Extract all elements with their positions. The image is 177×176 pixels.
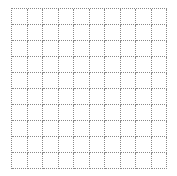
grid-cell[interactable]: [74, 57, 90, 73]
grid-cell[interactable]: [74, 25, 90, 41]
grid-cell[interactable]: [12, 105, 28, 121]
grid-cell[interactable]: [105, 137, 121, 153]
grid-cell[interactable]: [43, 9, 59, 25]
grid-cell[interactable]: [90, 9, 106, 25]
grid-cell[interactable]: [28, 57, 44, 73]
grid-cell[interactable]: [105, 105, 121, 121]
grid-cell[interactable]: [90, 153, 106, 169]
grid-cell[interactable]: [59, 73, 75, 89]
grid-cell[interactable]: [12, 73, 28, 89]
grid-cell[interactable]: [43, 137, 59, 153]
grid-cell[interactable]: [121, 153, 137, 169]
grid-cell[interactable]: [136, 105, 152, 121]
grid-cell[interactable]: [105, 73, 121, 89]
grid-cell[interactable]: [28, 137, 44, 153]
grid-cell[interactable]: [136, 73, 152, 89]
grid-cell[interactable]: [152, 153, 168, 169]
grid-cell[interactable]: [28, 73, 44, 89]
grid-cell[interactable]: [28, 89, 44, 105]
grid-cell[interactable]: [90, 57, 106, 73]
grid-cell[interactable]: [59, 105, 75, 121]
grid-cell[interactable]: [121, 121, 137, 137]
grid-cell[interactable]: [59, 121, 75, 137]
grid-cell[interactable]: [43, 153, 59, 169]
grid-cell[interactable]: [136, 41, 152, 57]
grid-cell[interactable]: [152, 9, 168, 25]
grid-cell[interactable]: [59, 153, 75, 169]
grid-cell[interactable]: [121, 41, 137, 57]
grid-cell[interactable]: [90, 25, 106, 41]
grid-cell[interactable]: [152, 73, 168, 89]
grid-cell[interactable]: [12, 153, 28, 169]
grid-cell[interactable]: [121, 57, 137, 73]
grid-cell[interactable]: [74, 137, 90, 153]
grid-cell[interactable]: [90, 105, 106, 121]
grid-cell[interactable]: [105, 41, 121, 57]
grid-cell[interactable]: [121, 9, 137, 25]
grid-cell[interactable]: [28, 153, 44, 169]
grid-cell[interactable]: [136, 57, 152, 73]
grid-cell[interactable]: [152, 105, 168, 121]
grid-cell[interactable]: [74, 89, 90, 105]
grid-cell[interactable]: [43, 121, 59, 137]
grid-cell[interactable]: [74, 9, 90, 25]
grid-cell[interactable]: [136, 137, 152, 153]
grid-cell[interactable]: [90, 73, 106, 89]
grid-cell[interactable]: [74, 73, 90, 89]
grid-cell[interactable]: [152, 57, 168, 73]
grid-cell[interactable]: [43, 41, 59, 57]
grid-cell[interactable]: [12, 25, 28, 41]
grid-cell[interactable]: [43, 57, 59, 73]
grid-cell[interactable]: [28, 41, 44, 57]
grid-cell[interactable]: [43, 25, 59, 41]
grid-cell[interactable]: [74, 105, 90, 121]
grid-cell[interactable]: [136, 89, 152, 105]
grid-cell[interactable]: [136, 9, 152, 25]
grid-cell[interactable]: [105, 9, 121, 25]
grid-cell[interactable]: [28, 25, 44, 41]
grid-cell[interactable]: [12, 41, 28, 57]
grid-cell[interactable]: [43, 105, 59, 121]
grid-cell[interactable]: [121, 89, 137, 105]
grid-cell[interactable]: [90, 89, 106, 105]
grid-cell[interactable]: [105, 57, 121, 73]
grid-cell[interactable]: [59, 57, 75, 73]
grid-cell[interactable]: [74, 121, 90, 137]
grid-cell[interactable]: [74, 153, 90, 169]
grid-cell[interactable]: [12, 9, 28, 25]
grid-cell[interactable]: [59, 25, 75, 41]
grid-cell[interactable]: [152, 89, 168, 105]
grid-cell[interactable]: [121, 25, 137, 41]
grid-cell[interactable]: [12, 57, 28, 73]
grid-cell[interactable]: [74, 41, 90, 57]
grid-cell[interactable]: [152, 137, 168, 153]
grid-cell[interactable]: [105, 89, 121, 105]
grid-cell[interactable]: [90, 137, 106, 153]
grid-cell[interactable]: [12, 121, 28, 137]
grid-cell[interactable]: [121, 137, 137, 153]
grid-cell[interactable]: [28, 121, 44, 137]
grid-cell[interactable]: [152, 41, 168, 57]
grid-cell[interactable]: [105, 121, 121, 137]
grid-cell[interactable]: [28, 9, 44, 25]
grid-cell[interactable]: [136, 121, 152, 137]
grid-cell[interactable]: [121, 105, 137, 121]
grid-cell[interactable]: [59, 9, 75, 25]
grid-cell[interactable]: [90, 121, 106, 137]
grid-cell[interactable]: [59, 137, 75, 153]
grid-cell[interactable]: [12, 89, 28, 105]
grid-cell[interactable]: [43, 73, 59, 89]
grid-cell[interactable]: [59, 41, 75, 57]
grid-cell[interactable]: [59, 89, 75, 105]
grid-cell[interactable]: [152, 121, 168, 137]
grid-cell[interactable]: [136, 25, 152, 41]
grid-cell[interactable]: [12, 137, 28, 153]
grid-cell[interactable]: [105, 153, 121, 169]
grid-cell[interactable]: [43, 89, 59, 105]
grid-cell[interactable]: [105, 25, 121, 41]
grid-cell[interactable]: [121, 73, 137, 89]
grid-cell[interactable]: [90, 41, 106, 57]
grid-cell[interactable]: [28, 105, 44, 121]
grid-cell[interactable]: [152, 25, 168, 41]
grid-cell[interactable]: [136, 153, 152, 169]
